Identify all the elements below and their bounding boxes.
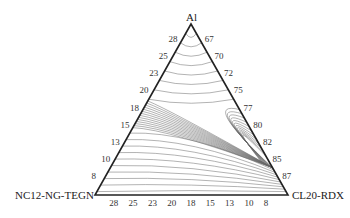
left-axis-tick: 8 xyxy=(92,172,97,181)
right-axis-tick: 82 xyxy=(263,138,272,147)
vertex-right-label: CL20-RDX xyxy=(292,190,344,201)
vertex-left-label: NC12-NG-TEGN xyxy=(15,190,94,201)
right-axis-tick: 75 xyxy=(234,86,243,95)
bottom-axis-tick: 15 xyxy=(206,199,215,208)
left-axis-tick: 18 xyxy=(130,104,139,113)
left-axis-tick: 15 xyxy=(120,121,129,130)
left-axis-tick: 20 xyxy=(140,86,149,95)
left-axis-tick: 23 xyxy=(149,69,158,78)
ternary-frame xyxy=(95,24,288,195)
right-axis-tick: 67 xyxy=(205,35,214,44)
left-axis-tick: 10 xyxy=(101,155,110,164)
bottom-axis-tick: 18 xyxy=(187,199,196,208)
bottom-axis-tick: 28 xyxy=(109,199,118,208)
bottom-axis-tick: 25 xyxy=(129,199,138,208)
left-axis-tick: 28 xyxy=(168,35,177,44)
left-axis-tick: 13 xyxy=(111,138,120,147)
right-axis-tick: 70 xyxy=(214,52,223,61)
left-axis-tick: 25 xyxy=(159,52,168,61)
right-axis-tick: 72 xyxy=(224,69,233,78)
bottom-axis-tick: 20 xyxy=(167,199,176,208)
bottom-axis-tick: 23 xyxy=(148,199,157,208)
right-axis-tick: 80 xyxy=(253,121,262,130)
right-axis-tick: 85 xyxy=(273,155,282,164)
bottom-axis-tick: 13 xyxy=(225,199,234,208)
vertex-top-label: Al xyxy=(186,12,197,23)
bottom-axis-tick: 8 xyxy=(264,199,269,208)
right-axis-tick: 77 xyxy=(244,104,253,113)
ternary-plot xyxy=(0,0,350,218)
bottom-axis-tick: 10 xyxy=(244,199,253,208)
right-axis-tick: 87 xyxy=(282,172,291,181)
